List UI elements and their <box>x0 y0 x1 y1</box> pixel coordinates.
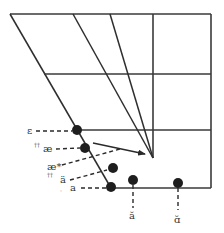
converging-line-2 <box>110 14 153 158</box>
dot-a-umlaut <box>108 163 118 173</box>
shift-arrow <box>93 143 145 154</box>
label-ae: æ <box>43 143 52 154</box>
dot-a-back-breve <box>173 178 183 188</box>
marks-a-umlaut: †† <box>47 171 53 178</box>
dot-a-breve <box>128 175 138 185</box>
vowel-quadrilateral-frame <box>10 14 211 188</box>
leader-ae-star <box>62 149 120 165</box>
converging-lines <box>73 14 153 158</box>
label-a-back-breve: ɑ̆ <box>174 214 181 225</box>
converging-line-1 <box>73 14 153 158</box>
vowel-diagram: ε †† æ æ* †† ä · a ă ɑ̆ <box>0 0 224 233</box>
marks-a: · <box>60 187 62 194</box>
label-epsilon: ε <box>27 125 32 136</box>
label-a-umlaut: ä <box>60 174 66 185</box>
dot-epsilon <box>72 125 82 135</box>
dot-ae <box>80 143 90 153</box>
leader-ae <box>56 148 80 149</box>
vowel-dots <box>72 125 183 192</box>
label-a: a <box>70 182 76 193</box>
height-divisions <box>44 74 211 130</box>
dot-a <box>106 182 116 192</box>
label-a-breve: ă <box>129 210 135 221</box>
marks-ae: †† <box>34 141 40 148</box>
